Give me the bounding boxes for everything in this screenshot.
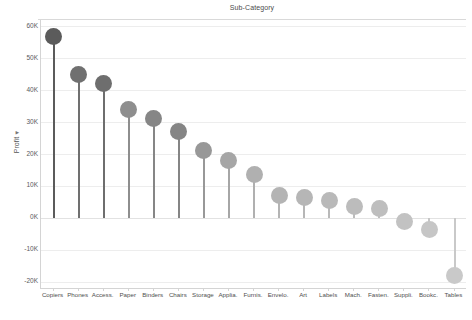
x-axis-tick-label[interactable]: Fasten.	[366, 292, 391, 298]
y-axis-tick-label: 40K	[12, 87, 38, 94]
x-axis-tick-label[interactable]: Phones	[65, 292, 90, 298]
lollipop-chart-viz: Sub-Category Profit▼ 60K50K40K30K20K10K0…	[0, 0, 472, 320]
x-axis-tick-labels: CopiersPhonesAccess.PaperBindersChairsSt…	[40, 290, 466, 306]
x-axis-tick-label[interactable]: Furnis.	[241, 292, 266, 298]
y-axis-tick-labels: 60K50K40K30K20K10K0K-10K-20K	[8, 0, 38, 320]
x-axis-tick-label[interactable]: Art	[291, 292, 316, 298]
y-axis-tick-label: 30K	[12, 119, 38, 126]
x-axis-tick-label[interactable]: Chairs	[165, 292, 190, 298]
x-axis-tick-label[interactable]: Bookc.	[416, 292, 441, 298]
plot-area	[40, 20, 466, 288]
x-axis-tick-label[interactable]: Tables	[441, 292, 466, 298]
x-axis-tick-label[interactable]: Storage	[190, 292, 215, 298]
y-axis-tick-label: 0K	[12, 214, 38, 221]
y-axis-tick-label: 10K	[12, 182, 38, 189]
x-axis-tick-label[interactable]: Labels	[316, 292, 341, 298]
lollipop-head[interactable]	[446, 267, 463, 284]
x-axis-tick-label[interactable]: Mach.	[341, 292, 366, 298]
x-axis-tick-label[interactable]: Suppli.	[391, 292, 416, 298]
y-axis-tick-label: -10K	[12, 246, 38, 253]
chart-title: Sub-Category	[38, 4, 466, 11]
x-axis-tick-label[interactable]: Binders	[140, 292, 165, 298]
x-axis-tick-label[interactable]: Access.	[90, 292, 115, 298]
x-axis-tick-label[interactable]: Envelo.	[266, 292, 291, 298]
y-axis-tick-label: 60K	[12, 23, 38, 30]
chart-title-band: Sub-Category	[38, 0, 466, 20]
y-axis-tick-label: 50K	[12, 55, 38, 62]
x-axis-tick-label[interactable]: Paper	[115, 292, 140, 298]
marks-layer	[41, 20, 466, 288]
x-axis-tick-label[interactable]: Copiers	[40, 292, 65, 298]
x-axis-tick-label[interactable]: Applia.	[215, 292, 240, 298]
y-axis-tick-label: -20K	[12, 278, 38, 285]
lollipop-mark[interactable]	[41, 20, 467, 288]
y-axis-tick-label: 20K	[12, 151, 38, 158]
